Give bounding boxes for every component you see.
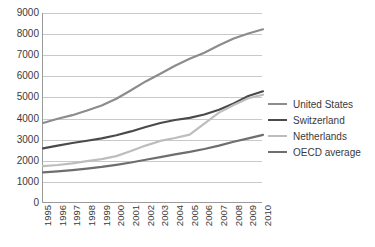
x-axis-tick-label: 1997 — [72, 205, 82, 226]
legend-item[interactable]: Netherlands — [268, 128, 375, 144]
y-axis-tick-label: 2000 — [17, 156, 39, 166]
y-axis-tick-label: 3000 — [17, 135, 39, 145]
x-axis-tick-label: 2001 — [131, 205, 141, 226]
x-axis-tick-label: 2010 — [263, 205, 273, 226]
x-axis-tick-label: 2003 — [160, 205, 170, 226]
series-line — [43, 135, 263, 173]
y-axis-tick-label: 6000 — [17, 71, 39, 81]
legend: United StatesSwitzerlandNetherlandsOECD … — [268, 96, 375, 160]
legend-swatch-icon — [268, 119, 287, 121]
x-axis-tick-label: 2002 — [146, 205, 156, 226]
legend-item-label: OECD average — [293, 147, 361, 158]
x-axis-tick-label: 2009 — [248, 205, 258, 226]
legend-item[interactable]: Switzerland — [268, 112, 375, 128]
x-axis-tick-label: 2004 — [175, 205, 185, 226]
series-lines — [43, 13, 263, 203]
legend-swatch-icon — [268, 135, 287, 137]
y-axis-tick-label: 4000 — [17, 114, 39, 124]
x-axis-tick-label: 2007 — [219, 205, 229, 226]
legend-swatch-icon — [268, 151, 287, 153]
plot-area: 9000800070006000500040003000200010000 19… — [42, 13, 262, 203]
x-axis-tick-label: 2005 — [190, 205, 200, 226]
series-line — [43, 91, 263, 148]
y-axis-tick-label: 0 — [33, 198, 39, 208]
legend-item[interactable]: United States — [268, 96, 375, 112]
line-chart: 9000800070006000500040003000200010000 19… — [0, 0, 375, 247]
x-axis-tick-label: 2008 — [234, 205, 244, 226]
series-line — [43, 29, 263, 123]
y-axis-tick-label: 5000 — [17, 92, 39, 102]
legend-item-label: United States — [293, 99, 353, 110]
x-axis-tick-label: 2006 — [204, 205, 214, 226]
x-axis-tick-label: 1999 — [102, 205, 112, 226]
y-axis-tick-label: 9000 — [17, 8, 39, 18]
x-axis-tick-label: 1996 — [58, 205, 68, 226]
y-axis-tick-label: 1000 — [17, 177, 39, 187]
y-axis-tick-label: 7000 — [17, 50, 39, 60]
legend-swatch-icon — [268, 103, 287, 105]
y-axis-tick-label: 8000 — [17, 29, 39, 39]
x-axis-tick-label: 1998 — [87, 205, 97, 226]
legend-item[interactable]: OECD average — [268, 144, 375, 160]
legend-item-label: Netherlands — [293, 131, 347, 142]
x-axis-tick-label: 1995 — [43, 205, 53, 226]
legend-item-label: Switzerland — [293, 115, 345, 126]
x-axis-tick-label: 2000 — [116, 205, 126, 226]
